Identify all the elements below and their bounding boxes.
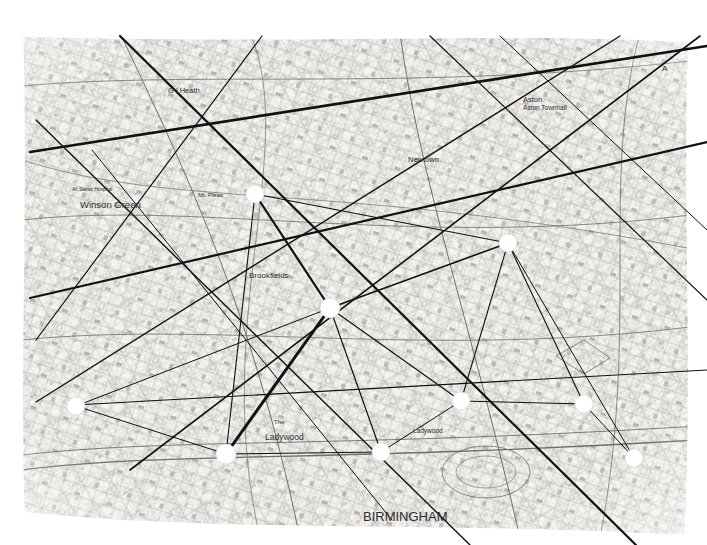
graph-node-n3[interactable] (320, 298, 340, 318)
graph-node-n7[interactable] (216, 444, 236, 464)
graph-node-n2[interactable] (499, 234, 517, 252)
graph-node-n4[interactable] (67, 397, 85, 415)
graph-node-n9[interactable] (625, 449, 643, 467)
graph-node-n5[interactable] (452, 392, 470, 410)
graph-node-n1[interactable] (246, 185, 264, 203)
graph-node-n6[interactable] (575, 395, 593, 413)
map-figure: G l HeathAstonAston TownhallNewtownWinso… (0, 0, 707, 545)
map-canvas (0, 0, 707, 545)
graph-node-n8[interactable] (372, 443, 390, 461)
